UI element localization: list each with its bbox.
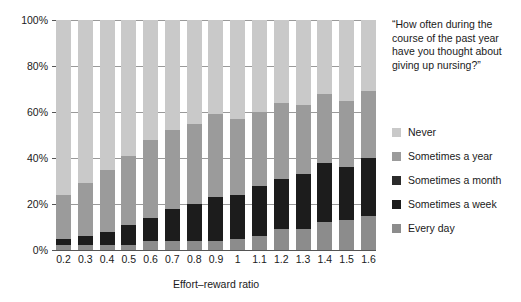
bar-column[interactable] — [56, 20, 71, 250]
bar-segment[interactable] — [78, 183, 93, 236]
legend-item-label: Every day — [408, 223, 455, 234]
bar-segment[interactable] — [121, 156, 136, 225]
bar-segment[interactable] — [252, 186, 267, 237]
bar-column[interactable] — [317, 20, 332, 250]
bar-segment[interactable] — [78, 236, 93, 245]
bar-segment[interactable] — [230, 195, 245, 239]
bar-segment[interactable] — [274, 229, 289, 250]
bar-segment[interactable] — [296, 229, 311, 250]
x-axis-tick-labels: 0.20.30.40.50.60.70.80.911.11.21.31.41.5… — [56, 253, 376, 265]
bar-column[interactable] — [187, 20, 202, 250]
bar-segment[interactable] — [252, 20, 267, 112]
bar-column[interactable] — [121, 20, 136, 250]
bar-column[interactable] — [361, 20, 376, 250]
bar-segment[interactable] — [143, 20, 158, 140]
legend-swatch-icon — [392, 176, 401, 185]
bar-segment[interactable] — [121, 20, 136, 156]
bar-segment[interactable] — [187, 204, 202, 241]
legend-item-label: Sometimes a month — [408, 175, 501, 186]
bar-segment[interactable] — [361, 91, 376, 158]
bar-segment[interactable] — [208, 20, 223, 114]
bar-segment[interactable] — [56, 20, 71, 195]
bar-segment[interactable] — [274, 20, 289, 103]
bar-segment[interactable] — [274, 103, 289, 179]
bar-segment[interactable] — [361, 158, 376, 216]
bar-segment[interactable] — [208, 114, 223, 197]
bar-segment[interactable] — [187, 124, 202, 205]
bar-segment[interactable] — [143, 140, 158, 218]
legend-item[interactable]: Every day — [392, 216, 520, 240]
bar-segment[interactable] — [78, 245, 93, 250]
bar-segment[interactable] — [230, 239, 245, 251]
bar-segment[interactable] — [165, 130, 180, 208]
bar-segment[interactable] — [317, 94, 332, 163]
bar-segment[interactable] — [143, 218, 158, 241]
bar-segment[interactable] — [56, 239, 71, 246]
legend-swatch-icon — [392, 152, 401, 161]
bar-segment[interactable] — [100, 170, 115, 232]
bar-segment[interactable] — [165, 20, 180, 130]
bar-segment[interactable] — [121, 245, 136, 250]
bar-column[interactable] — [143, 20, 158, 250]
bar-column[interactable] — [339, 20, 354, 250]
legend-item[interactable]: Sometimes a week — [392, 192, 520, 216]
bar-segment[interactable] — [100, 232, 115, 246]
y-axis-tick-label: 100% — [21, 15, 48, 26]
bar-segment[interactable] — [165, 209, 180, 241]
bar-column[interactable] — [100, 20, 115, 250]
y-axis-tick-label: 0% — [33, 245, 48, 256]
legend-swatch-icon — [392, 128, 401, 137]
bar-column[interactable] — [296, 20, 311, 250]
legend-item[interactable]: Sometimes a month — [392, 168, 520, 192]
bar-series-group — [56, 20, 376, 250]
bar-segment[interactable] — [252, 236, 267, 250]
legend-item-label: Never — [408, 127, 436, 138]
bar-segment[interactable] — [339, 167, 354, 220]
legend-item[interactable]: Sometimes a year — [392, 144, 520, 168]
y-axis-tick-label: 80% — [27, 61, 48, 72]
bar-segment[interactable] — [230, 119, 245, 195]
bar-segment[interactable] — [296, 20, 311, 105]
bar-column[interactable] — [252, 20, 267, 250]
x-axis-tick-label: 0.4 — [100, 253, 115, 265]
bar-segment[interactable] — [317, 20, 332, 94]
bar-segment[interactable] — [317, 163, 332, 223]
chart-question-text: “How often during the course of the past… — [392, 18, 516, 72]
bar-segment[interactable] — [121, 225, 136, 246]
bar-segment[interactable] — [100, 245, 115, 250]
bar-segment[interactable] — [361, 216, 376, 251]
bar-segment[interactable] — [339, 101, 354, 168]
bar-segment[interactable] — [317, 222, 332, 250]
plot-area — [56, 20, 376, 250]
legend-item[interactable]: Never — [392, 120, 520, 144]
legend-item-label: Sometimes a year — [408, 151, 493, 162]
bar-segment[interactable] — [78, 20, 93, 183]
bar-segment[interactable] — [165, 241, 180, 250]
bar-segment[interactable] — [187, 20, 202, 124]
bar-segment[interactable] — [296, 105, 311, 174]
bar-column[interactable] — [78, 20, 93, 250]
bar-segment[interactable] — [339, 220, 354, 250]
bar-segment[interactable] — [208, 197, 223, 241]
legend-swatch-icon — [392, 200, 401, 209]
bar-segment[interactable] — [339, 20, 354, 101]
y-axis-tick-label: 40% — [27, 153, 48, 164]
bar-column[interactable] — [230, 20, 245, 250]
bar-segment[interactable] — [187, 241, 202, 250]
bar-column[interactable] — [274, 20, 289, 250]
bar-segment[interactable] — [252, 112, 267, 186]
bar-segment[interactable] — [143, 241, 158, 250]
bar-segment[interactable] — [274, 179, 289, 230]
bar-segment[interactable] — [56, 245, 71, 250]
bar-segment[interactable] — [56, 195, 71, 239]
bar-segment[interactable] — [100, 20, 115, 170]
x-axis-tick-label: 0.6 — [143, 253, 158, 265]
x-axis-tick-label: 1.6 — [361, 253, 376, 265]
bar-segment[interactable] — [208, 241, 223, 250]
bar-column[interactable] — [165, 20, 180, 250]
x-axis-tick-label: 0.5 — [121, 253, 136, 265]
bar-segment[interactable] — [230, 20, 245, 119]
bar-segment[interactable] — [296, 174, 311, 229]
bar-column[interactable] — [208, 20, 223, 250]
bar-segment[interactable] — [361, 20, 376, 91]
